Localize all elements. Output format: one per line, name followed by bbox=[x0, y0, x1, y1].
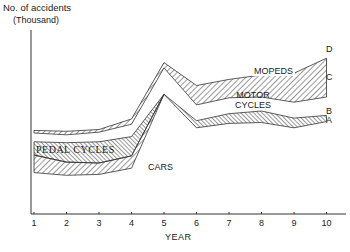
x-axis-label: YEAR bbox=[165, 232, 192, 242]
y-axis-unit: (Thousand) bbox=[13, 15, 59, 25]
motor-label-line1: MOTOR bbox=[235, 90, 271, 100]
y-axis-label: No. of accidents bbox=[3, 2, 71, 13]
motor-cycles-label: MOTOR CYCLES bbox=[235, 90, 271, 110]
x-tick-label: 9 bbox=[291, 218, 296, 228]
mopeds-label: MOPEDS bbox=[252, 66, 295, 76]
line-c-label: C bbox=[326, 72, 333, 82]
cars-label: CARS bbox=[148, 162, 173, 172]
x-tick-label: 1 bbox=[31, 218, 36, 228]
motor-label-line2: CYCLES bbox=[235, 100, 271, 110]
x-tick-label: 5 bbox=[161, 218, 166, 228]
x-tick-label: 6 bbox=[194, 218, 199, 228]
x-tick-label: 2 bbox=[64, 218, 69, 228]
x-tick-label: 8 bbox=[259, 218, 264, 228]
pedal-cycles-label: PEDAL CYCLES bbox=[36, 145, 115, 155]
x-tick-label: 7 bbox=[226, 218, 231, 228]
line-d-label: D bbox=[326, 44, 333, 54]
x-tick-label: 10 bbox=[321, 218, 331, 228]
line-a-label: A bbox=[326, 115, 332, 125]
x-tick-label: 4 bbox=[129, 218, 134, 228]
chart-plot bbox=[0, 0, 350, 252]
x-tick-label: 3 bbox=[96, 218, 101, 228]
